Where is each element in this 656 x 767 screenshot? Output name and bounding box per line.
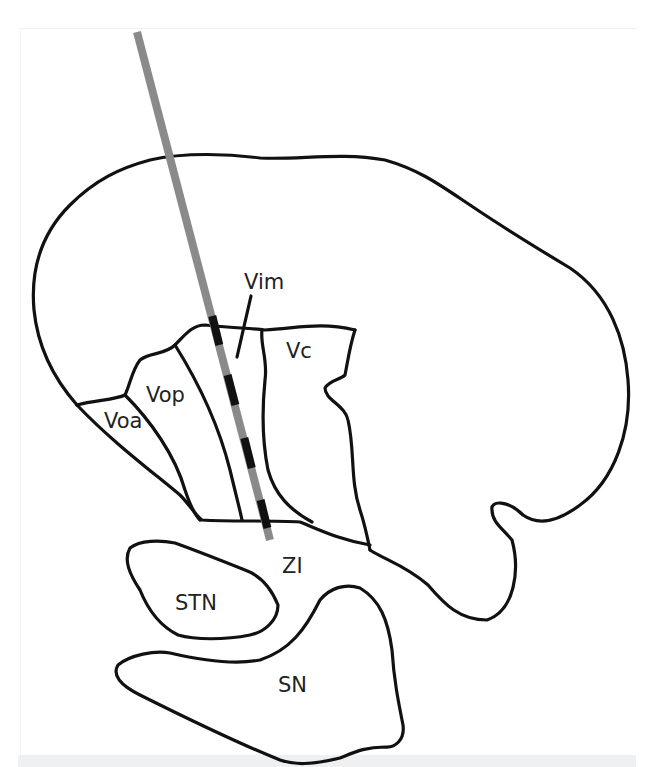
- electrode-contact-1: [212, 316, 219, 345]
- label-sn: SN: [278, 673, 307, 697]
- stn-outline: [127, 541, 278, 639]
- label-zi: ZI: [282, 554, 303, 578]
- thalamus-outline: [33, 155, 628, 621]
- electrode-contact-3: [244, 438, 252, 468]
- electrode-contact-4: [261, 500, 268, 528]
- label-voa: Voa: [104, 409, 142, 433]
- sn-outline: [116, 586, 403, 763]
- label-vop: Vop: [146, 383, 185, 407]
- electrode-contact-2: [228, 375, 236, 405]
- label-stn: STN: [175, 591, 217, 615]
- vc-boundary: [325, 330, 370, 550]
- label-vim: Vim: [244, 270, 284, 294]
- brain-diagram: Vim Vc Vop Voa ZI STN SN: [0, 0, 656, 767]
- label-vc: Vc: [286, 339, 312, 363]
